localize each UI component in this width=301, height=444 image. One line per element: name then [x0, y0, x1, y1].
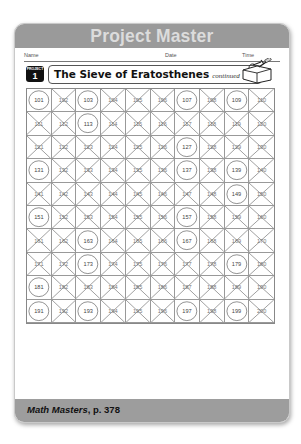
- grid-cell-number: 132: [52, 167, 76, 173]
- grid-cell-composite: 185: [126, 276, 151, 299]
- grid-cell-number: 141: [27, 191, 51, 197]
- grid-cell-composite: 177: [175, 253, 200, 276]
- grid-cell-composite: 120: [249, 112, 274, 135]
- grid-cell-number: 190: [249, 284, 274, 290]
- grid-cell-composite: 135: [126, 159, 151, 182]
- grid-cell-composite: 123: [76, 136, 101, 159]
- date-label: Date: [165, 52, 177, 58]
- grid-cell-composite: 170: [249, 229, 274, 252]
- grid-cell-prime: 149: [225, 183, 250, 206]
- grid-cell-number: 156: [151, 214, 175, 220]
- grid-cell-composite: 155: [126, 206, 151, 229]
- banner-title: Project Master: [90, 24, 213, 48]
- grid-cell-number: 168: [200, 238, 224, 244]
- footer: Math Masters, p. 378: [15, 399, 289, 422]
- grid-cell-composite: 132: [52, 159, 77, 182]
- grid-cell-number: 196: [151, 308, 175, 314]
- title-main: The Sieve of Eratosthenes: [54, 68, 209, 80]
- grid-cell-prime: 193: [76, 300, 101, 323]
- grid-cell-number: 152: [52, 214, 76, 220]
- grid-cell-number: 139: [225, 167, 249, 173]
- grid-cell-prime: 181: [27, 276, 52, 299]
- grid-cell-composite: 144: [101, 183, 126, 206]
- grid-cell-number: 124: [101, 144, 125, 150]
- grid-cell-composite: 118: [200, 112, 225, 135]
- grid-cell-number: 107: [175, 97, 199, 103]
- grid-cell-composite: 115: [126, 112, 151, 135]
- grid-cell-number: 109: [225, 97, 249, 103]
- grid-cell-number: 154: [101, 214, 125, 220]
- grid-cell-number: 150: [249, 191, 274, 197]
- grid-cell-number: 187: [175, 284, 199, 290]
- grid-cell-number: 119: [225, 121, 249, 127]
- grid-cell-composite: 178: [200, 253, 225, 276]
- grid-cell-composite: 126: [151, 136, 176, 159]
- grid-cell-number: 171: [27, 261, 51, 267]
- grid-cell-composite: 145: [126, 183, 151, 206]
- grid-cell-composite: 130: [249, 136, 274, 159]
- grid-cell-number: 179: [225, 261, 249, 267]
- grid-cell-composite: 105: [126, 89, 151, 112]
- grid-cell-composite: 104: [101, 89, 126, 112]
- grid-cell-number: 160: [249, 214, 274, 220]
- grid-cell-composite: 174: [101, 253, 126, 276]
- title-box: The Sieve of Eratosthenescontinued: [48, 65, 262, 84]
- grid-cell-number: 197: [175, 308, 199, 314]
- grid-cell-number: 116: [151, 121, 175, 127]
- grid-cell-number: 175: [126, 261, 150, 267]
- grid-cell-number: 104: [101, 97, 125, 103]
- grid-cell-composite: 106: [151, 89, 176, 112]
- grid-cell-number: 192: [52, 308, 76, 314]
- grid-cell-number: 130: [249, 144, 274, 150]
- grid-cell-number: 148: [200, 191, 224, 197]
- grid-cell-number: 162: [52, 238, 76, 244]
- grid-cell-number: 185: [126, 284, 150, 290]
- grid-cell-composite: 133: [76, 159, 101, 182]
- grid-cell-composite: 129: [225, 136, 250, 159]
- grid-cell-prime: 157: [175, 206, 200, 229]
- grid-cell-composite: 124: [101, 136, 126, 159]
- footer-reference: Math Masters, p. 378: [27, 404, 120, 415]
- grid-cell-prime: 101: [27, 89, 52, 112]
- grid-cell-number: 166: [151, 238, 175, 244]
- grid-cell-number: 105: [126, 97, 150, 103]
- grid-cell-composite: 189: [225, 276, 250, 299]
- grid-cell-number: 137: [175, 167, 199, 173]
- grid-cell-number: 121: [27, 144, 51, 150]
- grid-cell-number: 167: [175, 238, 199, 244]
- grid-cell-number: 183: [76, 284, 100, 290]
- grid-cell-composite: 187: [175, 276, 200, 299]
- grid-cell-number: 181: [27, 284, 51, 290]
- grid-cell-composite: 198: [200, 300, 225, 323]
- grid-cell-composite: 166: [151, 229, 176, 252]
- grid-cell-number: 122: [52, 144, 76, 150]
- grid-cell-composite: 159: [225, 206, 250, 229]
- grid-cell-number: 198: [200, 308, 224, 314]
- grid-cell-composite: 114: [101, 112, 126, 135]
- grid-cell-number: 120: [249, 121, 274, 127]
- grid-cell-number: 155: [126, 214, 150, 220]
- grid-cell-number: 133: [76, 167, 100, 173]
- grid-cell-prime: 179: [225, 253, 250, 276]
- grid-cell-composite: 172: [52, 253, 77, 276]
- grid-cell-number: 189: [225, 284, 249, 290]
- grid-cell-composite: 169: [225, 229, 250, 252]
- grid-cell-composite: 141: [27, 183, 52, 206]
- grid-cell-composite: 180: [249, 253, 274, 276]
- grid-cell-number: 193: [76, 308, 100, 314]
- sieve-grid: 1011021031041051061071081091101111121131…: [26, 88, 275, 324]
- grid-cell-number: 146: [151, 191, 175, 197]
- grid-cell-number: 102: [52, 97, 76, 103]
- grid-cell-composite: 111: [27, 112, 52, 135]
- grid-cell-number: 118: [200, 121, 224, 127]
- grid-cell-prime: 199: [225, 300, 250, 323]
- grid-cell-number: 157: [175, 214, 199, 220]
- grid-cell-prime: 197: [175, 300, 200, 323]
- grid-cell-number: 129: [225, 144, 249, 150]
- grid-cell-number: 182: [52, 284, 76, 290]
- grid-cell-number: 143: [76, 191, 100, 197]
- grid-cell-composite: 184: [101, 276, 126, 299]
- grid-cell-number: 164: [101, 238, 125, 244]
- grid-cell-composite: 162: [52, 229, 77, 252]
- grid-cell-number: 158: [200, 214, 224, 220]
